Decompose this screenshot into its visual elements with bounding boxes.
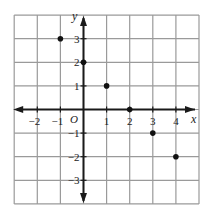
data-point bbox=[81, 60, 87, 66]
y-tick-label: −2 bbox=[68, 151, 80, 163]
y-axis-down-arrow-icon bbox=[80, 193, 87, 203]
x-tick-label: −1 bbox=[52, 115, 64, 127]
y-tick-label: −3 bbox=[68, 174, 80, 186]
data-point bbox=[104, 83, 110, 89]
x-tick-label: 1 bbox=[104, 115, 110, 127]
data-points bbox=[58, 36, 179, 160]
y-tick-label: 2 bbox=[74, 56, 80, 68]
data-point bbox=[173, 154, 179, 160]
y-axis-label: y bbox=[71, 9, 78, 23]
data-point bbox=[127, 107, 133, 113]
x-tick-label: 2 bbox=[127, 115, 133, 127]
x-tick-label: −2 bbox=[28, 115, 40, 127]
y-tick-label: 1 bbox=[74, 80, 80, 92]
y-tick-label: −1 bbox=[68, 127, 80, 139]
axes bbox=[13, 16, 195, 203]
x-tick-label: 3 bbox=[150, 115, 156, 127]
origin-label: O bbox=[70, 113, 78, 125]
x-axis-label: x bbox=[190, 112, 197, 126]
data-point bbox=[58, 36, 64, 42]
x-tick-label: 4 bbox=[173, 115, 179, 127]
y-tick-label: 3 bbox=[74, 33, 80, 45]
data-point bbox=[150, 130, 156, 136]
coordinate-plane: −2−11234321−1−2−3 x y O bbox=[0, 0, 208, 222]
y-axis-up-arrow-icon bbox=[80, 16, 87, 26]
